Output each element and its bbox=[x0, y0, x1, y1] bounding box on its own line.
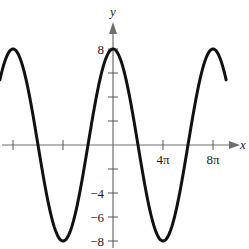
x-tick-label: 8π bbox=[206, 152, 220, 167]
y-axis-label: y bbox=[108, 4, 116, 19]
y-tick-label: 8 bbox=[98, 42, 105, 57]
y-axis-arrow-icon bbox=[109, 22, 117, 34]
y-tick-label: −6 bbox=[90, 210, 104, 225]
y-tick-label: −4 bbox=[90, 186, 104, 201]
x-axis-arrow-icon bbox=[229, 141, 240, 149]
y-tick-label: −8 bbox=[90, 234, 104, 249]
cosine-graph: 4π8π8−4−6−8 x y bbox=[0, 0, 249, 249]
x-tick-label: 4π bbox=[156, 152, 170, 167]
x-axis-label: x bbox=[239, 137, 246, 152]
